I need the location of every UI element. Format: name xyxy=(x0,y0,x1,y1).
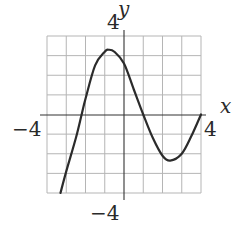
y-max-tick-label: 4 xyxy=(107,12,120,32)
x-max-tick-label: 4 xyxy=(204,119,217,139)
function-curve xyxy=(60,50,201,193)
x-axis-label: x xyxy=(220,96,231,116)
function-graph xyxy=(0,0,241,231)
y-min-tick-label: −4 xyxy=(90,203,119,223)
x-min-tick-label: −4 xyxy=(12,119,41,139)
